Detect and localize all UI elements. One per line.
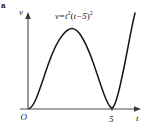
x-tick-label-5: 5 [109, 114, 114, 124]
x-axis-arrowhead [134, 106, 141, 112]
equation-exponent-2: 2 [90, 10, 93, 16]
x-axis-label: t [136, 113, 139, 123]
origin-label: O [21, 112, 28, 122]
y-axis-label: v [19, 7, 23, 17]
curve-equation-label: v=t2(t−5)2 [55, 11, 93, 22]
figure-container: a O t v 5 v=t2(t−5)2 [0, 0, 147, 126]
y-axis-arrowhead [25, 12, 31, 19]
velocity-curve [29, 13, 135, 109]
